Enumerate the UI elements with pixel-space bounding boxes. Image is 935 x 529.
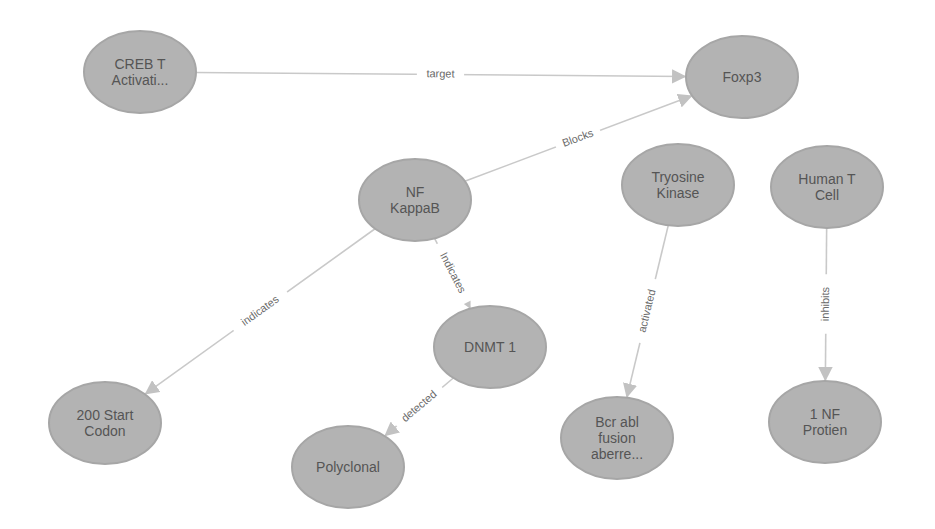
node-nfkappab[interactable]: NFKappaB: [359, 159, 471, 241]
edge-label: inhibits: [819, 286, 831, 321]
node-label: DNMT 1: [464, 339, 516, 355]
node-label: 200 Start: [77, 407, 134, 423]
node-label: Kinase: [657, 185, 700, 201]
node-label: fusion: [598, 430, 635, 446]
node-label: Cell: [815, 187, 839, 203]
node-label: Codon: [84, 423, 125, 439]
node-label: 1 NF: [810, 406, 840, 422]
node-dnmt1[interactable]: DNMT 1: [434, 306, 546, 388]
node-label: Polyclonal: [316, 459, 380, 475]
edge-creb-foxp3[interactable]: target: [196, 66, 685, 82]
node-bcrabl[interactable]: Bcr ablfusionaberre...: [561, 397, 673, 479]
node-label: Human T: [798, 171, 856, 187]
edge-nfkappab-dnmt1[interactable]: Indicates: [430, 238, 474, 307]
node-label: Foxp3: [723, 69, 762, 85]
node-label: Tryosine: [651, 169, 704, 185]
node-polyclonal[interactable]: Polyclonal: [292, 426, 404, 508]
nodes-layer: CREB TActivati...Foxp3NFKappaBTryosineKi…: [49, 31, 883, 508]
node-label: NF: [406, 184, 425, 200]
node-creb[interactable]: CREB TActivati...: [84, 31, 196, 113]
node-humant[interactable]: Human TCell: [771, 146, 883, 228]
node-tryosine[interactable]: TryosineKinase: [622, 144, 734, 226]
edge-label: target: [426, 67, 454, 79]
node-label: CREB T: [114, 56, 166, 72]
node-label: Protien: [803, 422, 847, 438]
graph-canvas[interactable]: targetBlocksindicatesIndicatesdetectedac…: [0, 0, 935, 529]
node-start200[interactable]: 200 StartCodon: [49, 382, 161, 464]
node-label: KappaB: [390, 200, 440, 216]
edge-nfkappab-start200[interactable]: indicates: [146, 229, 375, 394]
edge-humant-nfprotien[interactable]: inhibits: [818, 228, 835, 380]
edge-tryosine-bcrabl[interactable]: activated: [627, 225, 668, 396]
node-label: Activati...: [112, 72, 169, 88]
node-label: Bcr abl: [595, 414, 639, 430]
edge-dnmt1-polyclonal[interactable]: detected: [385, 378, 453, 435]
node-foxp3[interactable]: Foxp3: [686, 36, 798, 118]
node-nfprotien[interactable]: 1 NFProtien: [769, 381, 881, 463]
node-label: aberre...: [591, 446, 643, 462]
